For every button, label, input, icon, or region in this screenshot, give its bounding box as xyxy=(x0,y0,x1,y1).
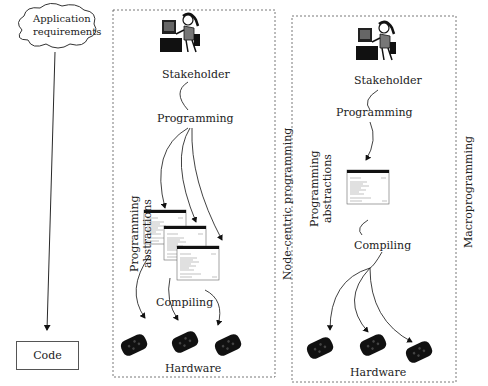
diagram-canvas xyxy=(0,0,488,386)
compiling-label-node: Compiling xyxy=(156,296,213,309)
programming-label-macro: Programming xyxy=(336,106,413,119)
stakeholder-label-macro: Stakeholder xyxy=(354,74,422,87)
macroprogramming-title: Macroprogramming xyxy=(462,136,475,248)
hardware-label-node: Hardware xyxy=(165,362,221,375)
hardware-label-macro: Hardware xyxy=(350,366,406,379)
code-box: Code xyxy=(16,341,79,370)
programming-label-node: Programming xyxy=(157,112,234,125)
compiling-label-macro: Compiling xyxy=(354,239,411,252)
application-requirements-label: Application requirements xyxy=(33,12,77,38)
node-centric-title: Node-centric programming xyxy=(281,128,294,280)
stakeholder-label-node: Stakeholder xyxy=(162,68,230,81)
code-label: Code xyxy=(33,349,62,362)
abstractions-label-node: Programmingabstractions xyxy=(128,195,154,272)
abstractions-label-macro: Programmingabstractions xyxy=(308,150,334,227)
